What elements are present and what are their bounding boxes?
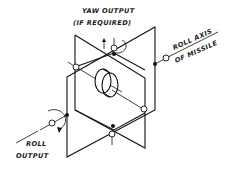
rotor bbox=[95, 69, 122, 97]
gimbal-diagram: YAW OUTPUT (IF REQUIRED) ROLL AXIS OF MI… bbox=[0, 0, 239, 171]
roll-output-label-line1: ROLL bbox=[26, 140, 47, 148]
roll-output-label-line2: OUTPUT bbox=[16, 152, 49, 160]
yaw-required-label: (IF REQUIRED) bbox=[73, 19, 132, 27]
yaw-pivot-bottom bbox=[109, 124, 115, 145]
yaw-output-label: YAW OUTPUT bbox=[82, 7, 135, 15]
pivot-right bbox=[141, 106, 147, 112]
pivot-left bbox=[68, 62, 80, 70]
rotor-cage bbox=[75, 53, 145, 130]
